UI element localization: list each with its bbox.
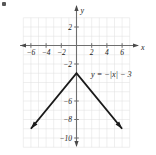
x-tick-label: 2	[90, 48, 94, 57]
x-axis-left-arrow-icon	[20, 43, 26, 47]
corner-bullet-icon	[2, 2, 6, 6]
x-tick-label: −2	[57, 48, 66, 57]
y-axis-up-arrow-icon	[74, 5, 78, 11]
y-axis-down-arrow-icon	[74, 141, 78, 147]
graph-figure: −6−4−2246 2−2−6−8−10 x y y = −|x| − 3	[0, 0, 156, 155]
y-tick-label: −2	[63, 60, 72, 69]
x-tick-label: −6	[26, 48, 35, 57]
y-tick-label: −8	[63, 115, 72, 124]
x-tick-labels: −6−4−2246	[26, 48, 124, 57]
x-tick-label: 6	[120, 48, 124, 57]
equation-annotation: y = −|x| − 3	[90, 70, 132, 79]
coordinate-plane: −6−4−2246 2−2−6−8−10 x y y = −|x| − 3	[0, 0, 156, 155]
y-axis-label: y	[80, 6, 85, 15]
x-tick-label: −4	[42, 48, 51, 57]
x-axis-right-arrow-icon	[133, 43, 139, 47]
x-tick-label: 4	[105, 48, 109, 57]
x-axis-label: x	[140, 43, 145, 52]
y-tick-label: −6	[63, 97, 72, 106]
y-tick-label: 2	[68, 23, 72, 32]
y-tick-label: −10	[59, 134, 72, 143]
